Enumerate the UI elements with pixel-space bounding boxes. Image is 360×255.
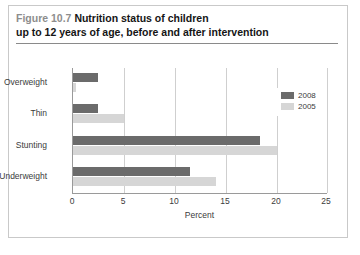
- title-text-1: Nutrition status of children: [74, 12, 208, 24]
- figure-card: Figure 10.7 Nutrition status of children…: [8, 5, 348, 238]
- category-label-stunting: Stunting: [0, 140, 47, 150]
- bar-stunting-2005: [73, 146, 277, 155]
- x-axis-label: Percent: [72, 210, 327, 220]
- legend-item-2005: 2005: [281, 102, 316, 111]
- legend-swatch-2008: [281, 92, 294, 99]
- x-tick-25: 25: [321, 196, 330, 206]
- x-tick-5: 5: [121, 196, 126, 206]
- plot-area: Overweight Thin Stunting Underweight: [72, 68, 327, 193]
- title-line-2: up to 12 years of age, before and after …: [16, 26, 338, 40]
- bar-overweight-2005: [73, 83, 76, 92]
- bar-group-stunting: Stunting: [73, 131, 327, 162]
- bar-underweight-2005: [73, 177, 216, 186]
- legend-label-2008: 2008: [298, 91, 316, 100]
- figure-number: Figure 10.7: [16, 12, 71, 24]
- chart-plot: Overweight Thin Stunting Underweight: [9, 58, 347, 238]
- x-tick-20: 20: [271, 196, 280, 206]
- x-tick-10: 10: [169, 196, 178, 206]
- figure-title: Figure 10.7 Nutrition status of children…: [16, 12, 338, 44]
- x-tick-0: 0: [70, 196, 75, 206]
- bar-stunting-2008: [73, 136, 260, 145]
- bar-group-underweight: Underweight: [73, 162, 327, 193]
- category-label-thin: Thin: [0, 108, 47, 118]
- chart-legend: 2008 2005: [277, 88, 320, 116]
- category-label-overweight: Overweight: [0, 77, 47, 87]
- bar-thin-2005: [73, 114, 124, 123]
- x-tick-15: 15: [220, 196, 229, 206]
- bar-thin-2008: [73, 104, 98, 113]
- gridline-25: [327, 68, 328, 193]
- bar-overweight-2008: [73, 73, 98, 82]
- legend-label-2005: 2005: [298, 102, 316, 111]
- bar-underweight-2008: [73, 167, 190, 176]
- legend-item-2008: 2008: [281, 91, 316, 100]
- x-axis-line: [72, 193, 327, 194]
- legend-swatch-2005: [281, 103, 294, 110]
- title-line-1: Figure 10.7 Nutrition status of children: [16, 12, 338, 26]
- category-label-underweight: Underweight: [0, 171, 47, 181]
